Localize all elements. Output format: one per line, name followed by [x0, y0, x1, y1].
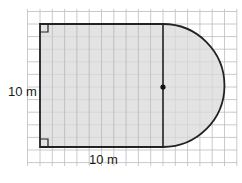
composite-shape: [40, 24, 224, 147]
semicircle-center-dot: [160, 84, 165, 89]
height-label: 10 m: [8, 84, 37, 99]
width-label: 10 m: [89, 152, 118, 167]
composite-shape-diagram: 10 m 10 m: [0, 0, 242, 183]
